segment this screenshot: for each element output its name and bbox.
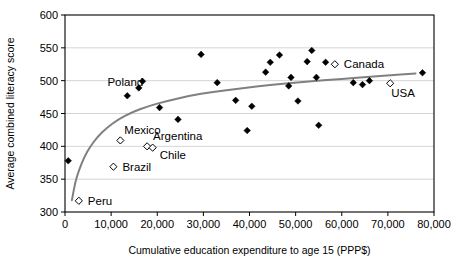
data-point-marker-open	[75, 197, 82, 204]
data-point-marker	[359, 81, 366, 88]
data-point-marker	[198, 51, 205, 58]
data-point-marker	[276, 52, 283, 59]
chart-canvas: 010,00020,00030,00040,00050,00060,00070,…	[0, 0, 465, 266]
country-label: Chile	[160, 149, 186, 161]
data-point-marker	[315, 122, 322, 129]
x-tick-label: 70,000	[371, 218, 405, 230]
data-point-marker	[175, 116, 182, 123]
trend-curve-group	[72, 73, 416, 200]
y-tick-label: 450	[40, 108, 58, 120]
x-tick-label: 0	[62, 218, 68, 230]
country-label: USA	[391, 87, 415, 99]
data-point-marker	[244, 127, 251, 134]
country-label: Canada	[344, 58, 385, 70]
data-point-marker	[267, 59, 274, 66]
x-tick-label: 80,000	[417, 218, 451, 230]
data-point-marker	[232, 97, 239, 104]
y-tick-label: 550	[40, 42, 58, 54]
y-tick-label: 500	[40, 75, 58, 87]
x-tick-label: 60,000	[325, 218, 359, 230]
country-label: Argentina	[153, 130, 203, 142]
y-tick-label: 600	[40, 9, 58, 21]
data-point-marker-open	[331, 61, 338, 68]
trend-curve	[72, 73, 416, 200]
x-tick-label: 30,000	[187, 218, 221, 230]
x-tick-label: 10,000	[94, 218, 128, 230]
country-label: Peru	[88, 195, 112, 207]
data-point-marker	[295, 98, 302, 105]
x-tick-label: 20,000	[140, 218, 174, 230]
data-point-marker	[288, 74, 295, 81]
data-point-marker	[124, 92, 131, 99]
data-point-marker	[313, 74, 320, 81]
data-point-marker	[65, 157, 72, 164]
x-axis-ticks: 010,00020,00030,00040,00050,00060,00070,…	[62, 212, 451, 230]
scatter-chart-figure: 010,00020,00030,00040,00050,00060,00070,…	[0, 0, 465, 266]
y-axis-ticks: 300350400450500550600	[40, 9, 65, 218]
chart-annotations: Poland	[107, 76, 143, 88]
chart-annotation: Poland	[107, 76, 143, 88]
data-point-marker	[322, 59, 329, 66]
data-point-marker	[419, 69, 426, 76]
y-tick-label: 350	[40, 173, 58, 185]
data-point-marker	[366, 77, 373, 84]
country-label: Brazil	[122, 161, 151, 173]
x-axis-title: Cumulative education expenditure to age …	[128, 244, 370, 256]
data-point-marker	[249, 103, 256, 110]
data-point-marker	[156, 104, 163, 111]
x-tick-label: 50,000	[279, 218, 313, 230]
x-tick-label: 40,000	[233, 218, 267, 230]
y-axis-title: Average combined literacy score	[4, 37, 16, 189]
data-point-marker	[304, 58, 311, 65]
y-tick-label: 400	[40, 140, 58, 152]
data-point-marker	[262, 69, 269, 76]
y-tick-label: 300	[40, 206, 58, 218]
data-point-marker-open	[110, 163, 117, 170]
data-point-marker-open	[117, 137, 124, 144]
